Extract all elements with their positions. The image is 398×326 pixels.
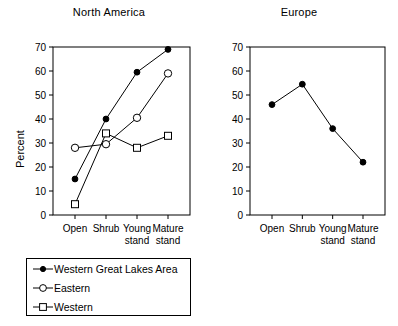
- open-circle-icon: [32, 282, 54, 294]
- data-point-open-circle: [71, 144, 78, 151]
- data-point-open-circle: [102, 141, 109, 148]
- y-tick-label: 30: [35, 138, 47, 149]
- x-tick-label-line2: stand: [351, 235, 375, 246]
- open-square-icon: [32, 301, 54, 313]
- x-tick-label: Shrub: [93, 223, 120, 234]
- legend-label: Eastern: [54, 282, 90, 294]
- data-point-open-circle: [164, 70, 171, 77]
- series-western: [72, 130, 172, 208]
- panel-north-america: North America Percent 010203040506070Ope…: [0, 0, 200, 260]
- y-tick-label: 70: [35, 42, 47, 53]
- legend-item: Eastern: [27, 278, 190, 297]
- y-tick-label: 40: [35, 114, 47, 125]
- y-tick-label: 60: [35, 66, 47, 77]
- x-tick-label-line2: stand: [125, 235, 149, 246]
- data-point-filled-circle: [72, 176, 78, 182]
- series-western-great-lakes-area: [72, 47, 171, 182]
- y-tick-label: 0: [237, 210, 243, 221]
- y-tick-label: 70: [232, 42, 244, 53]
- x-tick-label-line2: stand: [320, 235, 344, 246]
- data-point-open-square: [103, 130, 110, 137]
- data-point-open-square: [134, 144, 141, 151]
- x-tick-label: Open: [63, 223, 87, 234]
- data-point-filled-circle: [269, 102, 275, 108]
- series-eastern: [71, 70, 171, 152]
- x-tick-label: Young: [319, 223, 347, 234]
- y-tick-label: 10: [232, 186, 244, 197]
- panel-europe: Europe 010203040506070OpenShrubYoungstan…: [200, 0, 398, 260]
- x-tick-label: Mature: [347, 223, 379, 234]
- data-point-open-square: [165, 132, 172, 139]
- legend-item: Western: [27, 297, 190, 316]
- legend-label: Western Great Lakes Area: [54, 263, 178, 275]
- y-tick-label: 50: [232, 90, 244, 101]
- chart-plot-europe: 010203040506070OpenShrubYoungstandMature…: [200, 0, 398, 260]
- y-tick-label: 0: [40, 210, 46, 221]
- x-tick-label: Mature: [152, 223, 184, 234]
- data-point-filled-circle: [299, 81, 305, 87]
- data-point-open-circle: [133, 114, 140, 121]
- x-tick-label-line2: stand: [156, 235, 180, 246]
- x-tick-label: Shrub: [289, 223, 316, 234]
- data-point-filled-circle: [330, 126, 336, 132]
- data-point-filled-circle: [360, 159, 366, 165]
- data-point-filled-circle: [103, 116, 109, 122]
- x-tick-label: Young: [123, 223, 151, 234]
- legend-label: Western: [54, 301, 93, 313]
- filled-circle-icon: [32, 263, 54, 275]
- y-tick-label: 40: [232, 114, 244, 125]
- y-tick-label: 50: [35, 90, 47, 101]
- y-tick-label: 30: [232, 138, 244, 149]
- legend-item: Western Great Lakes Area: [27, 259, 190, 278]
- y-tick-label: 60: [232, 66, 244, 77]
- data-point-open-square: [72, 201, 79, 208]
- chart-plot-north-america: 010203040506070OpenShrubYoungstandMature…: [0, 0, 200, 260]
- data-point-filled-circle: [165, 47, 171, 53]
- y-tick-label: 20: [35, 162, 47, 173]
- data-point-filled-circle: [134, 69, 140, 75]
- y-tick-label: 10: [35, 186, 47, 197]
- y-tick-label: 20: [232, 162, 244, 173]
- series-europe: [269, 81, 366, 165]
- chart-legend: Western Great Lakes Area Eastern Western: [26, 258, 191, 316]
- x-tick-label: Open: [260, 223, 284, 234]
